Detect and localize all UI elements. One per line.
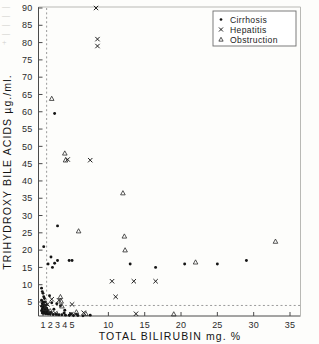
- data-point-cirrhosis: [183, 263, 186, 266]
- svg-text:20: 20: [22, 245, 32, 255]
- svg-text:85: 85: [22, 20, 32, 30]
- data-point-cirrhosis: [71, 259, 74, 262]
- svg-text:55: 55: [22, 124, 32, 134]
- plot-frame: [39, 7, 301, 316]
- data-point-cirrhosis: [89, 314, 92, 317]
- data-point-cirrhosis: [51, 266, 54, 269]
- svg-text:3: 3: [55, 320, 60, 330]
- data-point-hepatitis: [132, 279, 136, 283]
- y-axis-title: TRIHYDROXY BILE ACIDS µg./ml.: [1, 74, 13, 269]
- svg-text:15: 15: [22, 263, 32, 273]
- svg-text:45: 45: [22, 159, 32, 169]
- svg-text:90: 90: [22, 3, 32, 13]
- data-point-cirrhosis: [48, 294, 51, 297]
- data-point-cirrhosis: [56, 259, 59, 262]
- svg-text:10: 10: [22, 280, 32, 290]
- data-point-cirrhosis: [68, 259, 71, 262]
- data-point-cirrhosis: [129, 263, 132, 266]
- svg-text:1: 1: [40, 320, 45, 330]
- legend-label-hepatitis: Hepatitis: [230, 25, 267, 35]
- svg-text:75: 75: [22, 55, 32, 65]
- data-point-obstruction: [121, 191, 126, 195]
- data-point-hepatitis: [70, 302, 74, 306]
- data-point-hepatitis: [153, 279, 157, 283]
- axis-titles: TOTAL BILIRUBIN mg. %TRIHYDROXY BILE ACI…: [1, 74, 241, 342]
- data-point-cirrhosis: [53, 112, 56, 115]
- data-point-cirrhosis: [53, 262, 56, 265]
- svg-text:5: 5: [69, 320, 74, 330]
- data-point-cirrhosis: [220, 18, 223, 21]
- svg-text:20: 20: [176, 320, 186, 330]
- data-point-cirrhosis: [63, 309, 66, 312]
- svg-text:10: 10: [103, 320, 113, 330]
- data-point-obstruction: [273, 239, 278, 243]
- data-point-hepatitis: [134, 312, 138, 316]
- x-axis-title: TOTAL BILIRUBIN mg. %: [99, 330, 242, 342]
- data-point-obstruction: [122, 234, 127, 238]
- axis-ticks: [39, 8, 291, 316]
- svg-text:15: 15: [139, 320, 149, 330]
- svg-text:35: 35: [22, 193, 32, 203]
- svg-text:70: 70: [22, 72, 32, 82]
- data-point-cirrhosis: [56, 224, 59, 227]
- svg-text:25: 25: [212, 320, 222, 330]
- data-point-hepatitis: [113, 295, 117, 299]
- data-point-hepatitis: [95, 44, 99, 48]
- svg-text:80: 80: [22, 38, 32, 48]
- data-point-cirrhosis: [245, 259, 248, 262]
- data-point-cirrhosis: [58, 313, 61, 316]
- svg-text:2: 2: [48, 320, 53, 330]
- data-point-obstruction: [76, 229, 81, 233]
- reference-lines: [39, 8, 301, 316]
- svg-text:35: 35: [285, 320, 295, 330]
- data-point-cirrhosis: [42, 292, 45, 295]
- data-point-hepatitis: [50, 297, 54, 301]
- scatter-plot-figure: 5101520253035404550556065707580859012345…: [0, 0, 319, 344]
- series-cirrhosis: [40, 112, 248, 317]
- data-points: [40, 6, 278, 317]
- data-point-obstruction: [171, 312, 176, 316]
- data-point-obstruction: [123, 248, 128, 252]
- series-hepatitis: [44, 6, 157, 317]
- svg-text:25: 25: [22, 228, 32, 238]
- svg-text:4: 4: [62, 320, 67, 330]
- svg-text:65: 65: [22, 90, 32, 100]
- svg-text:40: 40: [22, 176, 32, 186]
- svg-text:5: 5: [27, 297, 32, 307]
- data-point-hepatitis: [95, 37, 99, 41]
- data-point-obstruction: [62, 151, 67, 155]
- axis-tick-labels: 5101520253035404550556065707580859012345…: [22, 3, 295, 330]
- svg-text:30: 30: [22, 211, 32, 221]
- page-bleed-artifact: ————+: [2, 2, 11, 47]
- data-point-obstruction: [193, 260, 198, 264]
- data-point-hepatitis: [94, 6, 98, 10]
- legend-label-cirrhosis: Cirrhosis: [230, 15, 267, 25]
- legend: CirrhosisHepatitisObstruction: [213, 11, 296, 46]
- data-point-cirrhosis: [154, 266, 157, 269]
- data-point-cirrhosis: [50, 301, 53, 304]
- data-point-cirrhosis: [50, 256, 53, 259]
- data-point-cirrhosis: [216, 263, 219, 266]
- data-point-cirrhosis: [52, 308, 55, 311]
- data-point-cirrhosis: [43, 297, 46, 300]
- data-point-obstruction: [58, 294, 63, 298]
- legend-label-obstruction: Obstruction: [230, 35, 278, 45]
- svg-text:50: 50: [22, 142, 32, 152]
- data-point-cirrhosis: [63, 312, 66, 315]
- data-point-cirrhosis: [42, 245, 45, 248]
- series-obstruction: [43, 96, 278, 316]
- data-point-cirrhosis: [40, 287, 43, 290]
- svg-text:60: 60: [22, 107, 32, 117]
- data-point-cirrhosis: [55, 302, 58, 305]
- data-point-hepatitis: [110, 279, 114, 283]
- data-point-obstruction: [49, 96, 54, 100]
- data-point-hepatitis: [88, 158, 92, 162]
- plot-canvas: 5101520253035404550556065707580859012345…: [0, 0, 319, 344]
- data-point-cirrhosis: [47, 263, 50, 266]
- svg-text:30: 30: [248, 320, 258, 330]
